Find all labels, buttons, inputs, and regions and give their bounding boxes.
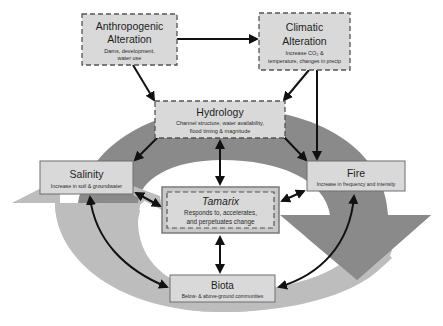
anthropogenic-title-2: Alteration <box>107 33 152 45</box>
anthropogenic-sub-2: water use <box>117 55 142 61</box>
node-climatic-alteration: Climatic Alteration Increase CO₂ & tempe… <box>259 13 350 70</box>
node-hydrology: Hydrology Channel structure, water avail… <box>155 101 285 138</box>
climatic-title-2: Alteration <box>282 35 327 47</box>
climatic-title-1: Climatic <box>286 21 323 33</box>
tamarix-title: Tamarix <box>202 195 240 207</box>
node-biota: Biota Below- & above-ground communities <box>170 275 275 302</box>
hydrology-title: Hydrology <box>196 106 244 118</box>
arrow-anthropogenic-to-hydrology <box>133 65 154 100</box>
tamarix-sub-2: and perpetuates change <box>187 218 255 226</box>
anthropogenic-title-1: Anthropogenic <box>96 20 164 32</box>
fire-title: Fire <box>347 167 365 179</box>
node-salinity: Salinity Increase in soil & groundwater <box>40 161 133 194</box>
hydrology-sub-1: Channel structure, water availability, <box>176 120 264 126</box>
node-tamarix: Tamarix Responds to, accelerates, and pe… <box>162 187 279 233</box>
fire-sub: Increase in frequency and intensity <box>317 181 396 187</box>
tamarix-feedback-diagram: Anthropogenic Alteration Dams, developme… <box>0 0 443 326</box>
hydrology-sub-2: flood timing & magnitude <box>190 128 251 134</box>
node-anthropogenic-alteration: Anthropogenic Alteration Dams, developme… <box>82 14 177 65</box>
biota-sub: Below- & above-ground communities <box>182 293 264 299</box>
node-fire: Fire Increase in frequency and intensity <box>307 161 405 191</box>
arrow-climatic-to-hydrology <box>284 70 309 100</box>
salinity-title: Salinity <box>70 168 105 180</box>
anthropogenic-sub-1: Dams, development, <box>104 48 155 54</box>
tamarix-sub-1: Responds to, accelerates, <box>184 209 257 217</box>
climatic-sub-2: temperature, changes in precip <box>268 58 341 64</box>
biota-title: Biota <box>211 280 234 291</box>
salinity-sub: Increase in soil & groundwater <box>51 183 122 189</box>
climatic-sub-1: Increase CO₂ & <box>285 50 324 56</box>
